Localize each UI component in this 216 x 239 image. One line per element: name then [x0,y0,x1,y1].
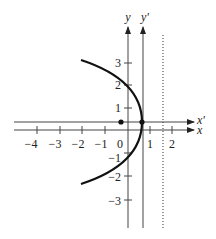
coordinate-diagram: −4 −3 −2 −1 0 1 2 3 2 1 −1 −2 −3 y y' x'… [0,0,216,239]
y-tick-label: 1 [115,101,121,115]
y-prime-axis-label: y' [140,10,149,24]
y-tick-label: −1 [108,151,121,165]
x-tick-label: −3 [49,137,62,151]
x-axis-label: x [196,123,203,137]
y-tick-label: 3 [115,56,121,70]
origin-point [118,119,123,124]
x-tick-label: −4 [25,137,38,151]
vertex-point [139,119,144,124]
x-tick-label: −1 [95,137,108,151]
y-tick-label: −3 [108,194,121,208]
x-tick-label: 0 [117,137,123,151]
y-axis-label: y [124,10,131,24]
x-tick-label: 2 [169,137,175,151]
x-tick-label: −2 [72,137,85,151]
x-tick-label: 1 [147,137,153,151]
